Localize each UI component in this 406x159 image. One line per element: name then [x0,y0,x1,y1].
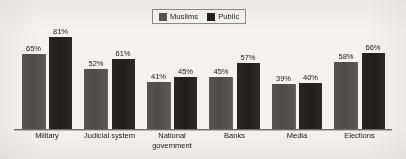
bar-group: 52%61% [85,26,135,129]
bar-public[interactable]: 57% [237,26,260,129]
bar-rect[interactable] [174,77,197,129]
bar-value-label: 65% [26,45,41,53]
axis-baseline [14,129,392,130]
bar-value-label: 57% [240,54,255,62]
bar-rect[interactable] [362,53,385,129]
bar-value-label: 52% [88,60,103,68]
bar-rect[interactable] [147,82,171,129]
bar-rect[interactable] [299,83,322,129]
bar-muslims[interactable]: 58% [335,26,358,129]
bar-value-label: 45% [213,68,228,76]
bar-value-label: 40% [303,74,318,82]
bar-value-label: 66% [365,44,380,52]
bar-group: 39%40% [272,26,322,129]
bar-group: 58%66% [335,26,385,129]
bar-public[interactable]: 40% [299,26,322,129]
legend-label-public: Public [218,13,239,21]
bar-value-label: 61% [115,50,130,58]
bar-rect[interactable] [237,63,260,129]
bar-value-label: 39% [276,75,291,83]
chart-legend: Muslims Public [152,9,246,24]
bar-rect[interactable] [22,54,46,129]
bar-muslims[interactable]: 41% [147,26,170,129]
bar-group: 45%57% [210,26,260,129]
bar-value-label: 41% [151,73,166,81]
category-labels: MilitaryJudicial systemNational governme… [0,131,406,159]
bar-rect[interactable] [49,37,72,129]
bar-value-label: 58% [338,53,353,61]
legend-item-muslims: Muslims [159,13,198,21]
bar-public[interactable]: 81% [49,26,72,129]
bar-muslims[interactable]: 39% [272,26,295,129]
bar-rect[interactable] [334,62,358,129]
plot-area: 65%81%52%61%41%45%45%57%39%40%58%66% [0,26,406,130]
bar-group: 65%81% [22,26,72,129]
bar-value-label: 45% [178,68,193,76]
bar-rect[interactable] [272,84,296,129]
bar-public[interactable]: 61% [112,26,135,129]
bar-rect[interactable] [84,69,108,129]
legend-label-muslims: Muslims [170,13,198,21]
bar-public[interactable]: 45% [174,26,197,129]
legend-swatch-public-icon [207,13,215,21]
bar-group: 41%45% [147,26,197,129]
bar-rect[interactable] [112,59,135,129]
bar-muslims[interactable]: 45% [210,26,233,129]
bar-muslims[interactable]: 65% [22,26,45,129]
category-label: Elections [323,131,397,141]
bar-rect[interactable] [209,77,233,129]
bar-chart: Muslims Public 65%81%52%61%41%45%45%57%3… [0,0,406,159]
bar-value-label: 81% [53,28,68,36]
bar-muslims[interactable]: 52% [85,26,108,129]
legend-item-public: Public [207,13,239,21]
bar-public[interactable]: 66% [362,26,385,129]
legend-swatch-muslims-icon [159,13,167,21]
